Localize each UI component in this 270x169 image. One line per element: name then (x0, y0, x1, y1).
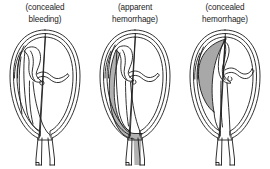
figure-panel-3: (concealed hemorrhage) (180, 0, 270, 169)
fetal-membrane-mid (29, 81, 33, 124)
umbilical-cord-tip (68, 74, 69, 77)
figure-panel-1: (concealed bleeding) (0, 0, 90, 169)
abruptio-placentae-figure: (concealed bleeding) (0, 0, 270, 169)
umbilical-cord (37, 72, 68, 79)
blood-stream-shading (109, 50, 142, 165)
fetal-membrane-left (24, 51, 39, 131)
figure-1-caption: (concealed bleeding) (0, 2, 90, 25)
fetal-membrane-right (227, 83, 230, 135)
cervix-outline (36, 138, 55, 165)
placenta-inner-fold (31, 51, 36, 81)
placenta-inner-fold (123, 50, 128, 80)
umbilical-cord-tip (158, 74, 160, 77)
uterus-diagram-concealed-hemorrhage (180, 26, 270, 169)
figure-panel-2: (apparent hemorrhage) (90, 0, 180, 169)
uterus-diagram-concealed-bleeding (0, 26, 90, 169)
cervix-outline (216, 138, 235, 165)
uterus-outer-wall-outline (10, 30, 80, 140)
figure-2-caption: (apparent hemorrhage) (90, 2, 180, 25)
umbilical-cord (225, 68, 252, 74)
umbilical-cord-coil (228, 77, 232, 82)
fetal-membrane-mid (126, 81, 129, 126)
uterus-middle-wall-outline (14, 34, 77, 139)
figure-3-caption: (concealed hemorrhage) (180, 2, 270, 25)
uterus-diagram-apparent-hemorrhage (90, 26, 180, 169)
